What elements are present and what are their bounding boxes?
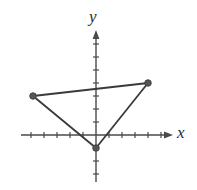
- vertex-dot-a: [30, 93, 37, 100]
- x-axis-arrow-icon: [164, 132, 173, 139]
- vertex-dot-c: [93, 145, 100, 152]
- triangle-outline: [33, 83, 148, 148]
- y-axis-arrow-icon: [93, 30, 100, 39]
- triangle-shape: [30, 80, 152, 152]
- x-axis-label: x: [177, 124, 185, 141]
- vertex-dot-b: [145, 80, 152, 87]
- graph-figure: y x: [0, 0, 197, 190]
- coordinate-plane: [0, 0, 197, 190]
- y-axis-label: y: [89, 8, 97, 25]
